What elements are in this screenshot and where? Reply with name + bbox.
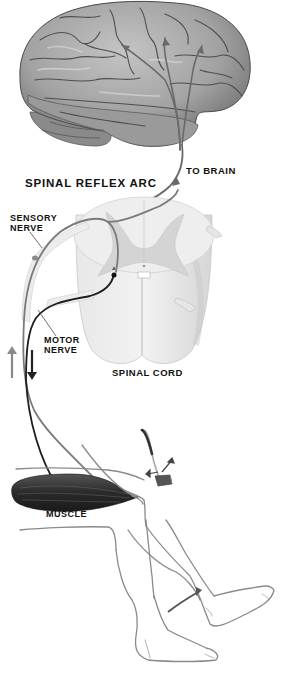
hammer-motion-arrows [146,458,174,477]
muscle [12,474,138,511]
label-motor-nerve: MOTOR NERVE [44,336,80,356]
kick-arrow [168,587,202,612]
sensory-ganglion [32,256,38,261]
spinal-reflex-diagram [0,0,285,676]
synapse [112,273,117,278]
label-sensory-line2: NERVE [10,224,57,234]
label-muscle: MUSCLE [46,510,87,520]
diagram-title: SPINAL REFLEX ARC [25,177,157,190]
motor-down-arrow [27,350,37,380]
reflex-hammer [141,430,172,486]
sensory-up-arrow [7,346,17,378]
sensory-leader-line [30,232,42,248]
label-spinal-cord: SPINAL CORD [112,368,183,378]
label-to-brain: TO BRAIN [186,166,236,176]
label-sensory-nerve: SENSORY NERVE [10,214,57,234]
motor-leader-line [38,310,56,336]
to-brain-pathway [140,145,183,205]
label-motor-line2: NERVE [44,346,80,356]
brain [20,1,250,146]
